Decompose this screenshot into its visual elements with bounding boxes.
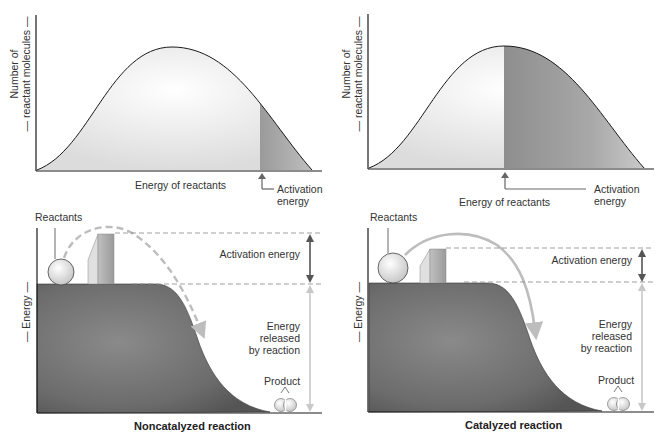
arrowhead-down-icon xyxy=(306,275,314,283)
top-right-distribution-chart xyxy=(368,14,654,189)
arrowhead-up-icon xyxy=(638,283,646,291)
activation-energy-label: Activation energy xyxy=(532,254,632,266)
x-axis-label: Energy of reactants xyxy=(135,179,226,191)
activation-barrier-front xyxy=(98,234,114,284)
arrowhead-down-icon xyxy=(638,403,646,411)
x-axis-label: Energy of reactants xyxy=(459,196,550,208)
energy-released-label: Energy released by reaction xyxy=(230,320,300,356)
product-pointer xyxy=(614,386,622,392)
y-axis-label: Number of — reactant molecules — xyxy=(8,12,32,136)
reactants-label: Reactants xyxy=(370,211,417,223)
panel-title: Catalyzed reaction xyxy=(465,419,562,431)
activation-barrier-front xyxy=(430,249,446,283)
arrowhead-up-icon xyxy=(306,285,314,293)
arrowhead-up-icon xyxy=(638,249,646,257)
arrowhead-up-icon xyxy=(306,234,314,242)
reactant-ball-icon xyxy=(48,259,74,285)
panel-title: Noncatalyzed reaction xyxy=(134,420,251,432)
energy-axis-label: — Energy — xyxy=(20,252,32,372)
activation-energy-label: Activation energy xyxy=(200,248,300,260)
activation-barrier-block xyxy=(420,249,430,283)
activation-barrier-block xyxy=(88,234,98,284)
reactants-label: Reactants xyxy=(35,211,82,223)
product-label: Product xyxy=(598,374,634,386)
activation-energy-label: Activation energy xyxy=(594,183,640,207)
product-pointer xyxy=(281,387,289,393)
diagram-canvas xyxy=(0,0,664,444)
above-activation-shaded-region xyxy=(504,40,649,170)
y-axis-label: Number of — reactant molecules — xyxy=(340,12,364,136)
energy-released-label: Energy released by reaction xyxy=(562,318,632,354)
activation-arrowhead-icon xyxy=(501,172,509,178)
above-activation-shaded-region xyxy=(260,40,320,171)
reactant-ball-icon xyxy=(378,253,408,283)
arrowhead-down-icon xyxy=(638,274,646,282)
energy-axis-label: — Energy — xyxy=(352,252,364,372)
activation-arrowhead-icon xyxy=(258,173,266,179)
arrowhead-down-icon xyxy=(306,404,314,412)
product-label: Product xyxy=(264,375,300,387)
activation-energy-label: Activation energy xyxy=(277,183,323,207)
top-left-distribution-chart xyxy=(36,15,322,189)
